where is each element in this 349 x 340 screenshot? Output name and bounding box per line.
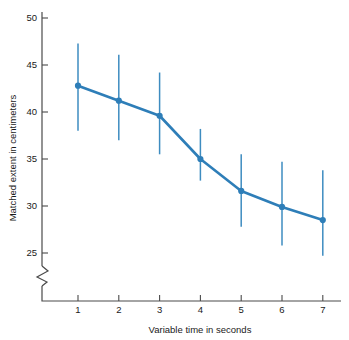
data-point-marker	[320, 217, 326, 223]
x-tick-label: 4	[198, 304, 203, 315]
data-point-marker	[238, 188, 244, 194]
y-tick-label: 25	[26, 247, 37, 258]
y-tick-label: 50	[26, 12, 37, 23]
x-tick-label: 5	[239, 304, 244, 315]
y-axis-title: Matched extent in centimeters	[7, 94, 18, 221]
x-tick-label: 3	[157, 304, 162, 315]
data-point-marker	[279, 204, 285, 210]
line-chart-svg: 253035404550 1234567 Variable time in se…	[0, 0, 349, 340]
data-point-marker	[116, 98, 122, 104]
chart-background	[0, 0, 349, 340]
data-point-marker	[157, 113, 163, 119]
x-tick-label: 1	[75, 304, 80, 315]
y-tick-label: 45	[26, 59, 37, 70]
x-axis-title: Variable time in seconds	[149, 324, 252, 335]
data-point-marker	[197, 156, 203, 162]
x-tick-label: 7	[320, 304, 325, 315]
x-tick-label: 2	[116, 304, 121, 315]
y-tick-label: 40	[26, 106, 37, 117]
y-tick-label: 30	[26, 200, 37, 211]
x-tick-label: 6	[279, 304, 284, 315]
y-tick-label: 35	[26, 153, 37, 164]
data-point-marker	[75, 83, 81, 89]
